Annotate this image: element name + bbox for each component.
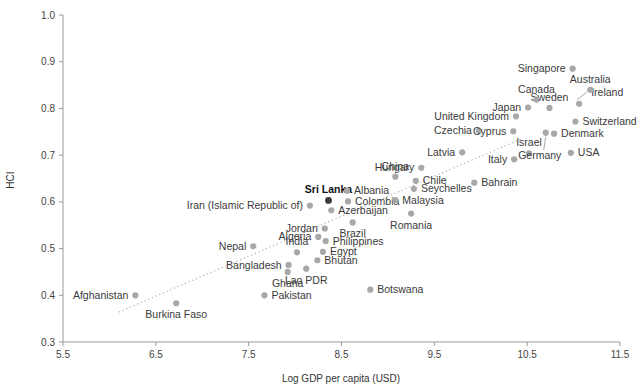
- y-tick-label: 0.8: [41, 103, 55, 114]
- data-point-group: Pakistan: [261, 289, 312, 301]
- data-point-group: Bahrain: [471, 176, 517, 188]
- data-point-label: Botswana: [377, 283, 423, 295]
- label-leader-line: [577, 92, 587, 100]
- data-point-dot[interactable]: [328, 207, 334, 213]
- y-tick-label: 0.3: [41, 337, 55, 348]
- data-point-dot[interactable]: [314, 257, 320, 263]
- data-point-dot[interactable]: [471, 180, 477, 186]
- y-tick-label: 0.7: [41, 150, 55, 161]
- data-point-dot[interactable]: [570, 66, 576, 72]
- x-tick-label: 6.5: [149, 349, 163, 360]
- data-point-dot[interactable]: [576, 101, 582, 107]
- data-point-label: Albania: [354, 184, 389, 196]
- y-tick-label: 0.9: [41, 56, 55, 67]
- x-tick-label: 9.5: [427, 349, 441, 360]
- data-point-dot[interactable]: [250, 243, 256, 249]
- data-point-label: Czechia: [434, 124, 472, 136]
- data-point-dot[interactable]: [303, 266, 309, 272]
- data-point-group: Afghanistan: [73, 289, 139, 301]
- data-point-dot[interactable]: [132, 292, 138, 298]
- data-point-label: Malaysia: [402, 194, 444, 206]
- data-point-label: Bangladesh: [226, 259, 282, 271]
- data-point-dot[interactable]: [418, 165, 424, 171]
- data-point-group: Switzerland: [572, 115, 637, 127]
- data-point-group: Brazil: [340, 219, 366, 239]
- data-point-group: Denmark: [551, 127, 604, 139]
- data-point-group: Italy: [488, 153, 517, 165]
- y-tick-label: 0.4: [41, 290, 55, 301]
- data-point-group: Japan: [492, 101, 531, 113]
- data-point-dot[interactable]: [568, 150, 574, 156]
- y-tick-label: 1.0: [41, 10, 55, 21]
- data-point-dot[interactable]: [322, 225, 328, 231]
- data-point-dot[interactable]: [511, 156, 517, 162]
- data-point-group: Iran (Islamic Republic of): [187, 199, 313, 211]
- data-point-dot[interactable]: [546, 105, 552, 111]
- x-axis-title: Log GDP per capita (USD): [282, 373, 400, 384]
- data-point-dot[interactable]: [408, 210, 414, 216]
- data-points-group: AfghanistanBurkina FasoNepalPakistanBang…: [73, 62, 637, 320]
- data-point-group: Romania: [390, 210, 432, 230]
- data-point-label: Nepal: [219, 240, 246, 252]
- data-point-label: Australia: [570, 73, 611, 85]
- data-point-dot[interactable]: [572, 118, 578, 124]
- x-tick-label: 10.5: [517, 349, 537, 360]
- data-point-dot[interactable]: [392, 174, 398, 180]
- data-point-dot[interactable]: [587, 87, 593, 93]
- data-point-group: Singapore: [518, 62, 576, 74]
- data-point-label: Lao PDR: [285, 274, 328, 286]
- data-point-label: Jordan: [286, 222, 318, 234]
- data-point-dot[interactable]: [533, 96, 539, 102]
- data-point-dot[interactable]: [513, 113, 519, 119]
- data-point-group: Latvia: [427, 146, 465, 158]
- x-tick-label: 7.5: [242, 349, 256, 360]
- data-point-label: Cyprus: [473, 125, 506, 137]
- data-point-dot[interactable]: [294, 249, 300, 255]
- data-point-dot[interactable]: [543, 130, 549, 136]
- data-point-label: Canada: [518, 83, 555, 95]
- y-tick-label: 0.5: [41, 243, 55, 254]
- chart-canvas: 0.30.40.50.60.70.80.91.05.56.57.58.59.51…: [0, 0, 641, 390]
- data-point-dot[interactable]: [525, 104, 531, 110]
- data-point-label: Singapore: [518, 62, 566, 74]
- data-point-dot[interactable]: [411, 186, 417, 192]
- data-point-group: Bangladesh: [226, 259, 292, 271]
- data-point-label: Egypt: [330, 245, 357, 257]
- y-axis-title: HCI: [5, 171, 16, 188]
- data-point-label: Denmark: [561, 127, 604, 139]
- data-point-dot[interactable]: [323, 238, 329, 244]
- data-point-dot[interactable]: [315, 234, 321, 240]
- x-tick-label: 8.5: [335, 349, 349, 360]
- data-point-dot[interactable]: [307, 202, 313, 208]
- data-point-group: Lao PDR: [285, 266, 328, 286]
- data-point-label: USA: [578, 146, 600, 158]
- scatter-chart: 0.30.40.50.60.70.80.91.05.56.57.58.59.51…: [0, 0, 641, 390]
- data-point-dot[interactable]: [320, 249, 326, 255]
- data-point-label: Italy: [488, 153, 508, 165]
- data-point-group: Ireland: [576, 86, 623, 107]
- data-point-group: Jordan: [286, 222, 328, 234]
- data-point-label: Burkina Faso: [145, 308, 207, 320]
- data-point-label: Pakistan: [271, 289, 311, 301]
- data-point-dot[interactable]: [344, 188, 350, 194]
- data-point-label: Japan: [492, 101, 521, 113]
- data-point-dot[interactable]: [392, 197, 398, 203]
- data-point-dot[interactable]: [325, 197, 332, 204]
- data-point-dot[interactable]: [413, 178, 419, 184]
- data-point-dot[interactable]: [350, 219, 356, 225]
- data-point-dot[interactable]: [459, 149, 465, 155]
- data-point-label: Iran (Islamic Republic of): [187, 199, 303, 211]
- data-point-dot[interactable]: [261, 292, 267, 298]
- data-point-group: Cyprus: [473, 125, 516, 137]
- data-point-label: Ireland: [591, 86, 623, 98]
- data-point-group: USA: [568, 146, 600, 158]
- data-point-dot[interactable]: [285, 262, 291, 268]
- data-point-dot[interactable]: [173, 300, 179, 306]
- data-point-group: Botswana: [367, 283, 423, 295]
- data-point-dot[interactable]: [551, 131, 557, 137]
- data-point-dot[interactable]: [510, 128, 516, 134]
- data-point-dot[interactable]: [345, 198, 351, 204]
- data-point-label: Chile: [423, 174, 447, 186]
- x-tick-label: 11.5: [611, 349, 630, 360]
- data-point-dot[interactable]: [367, 287, 373, 293]
